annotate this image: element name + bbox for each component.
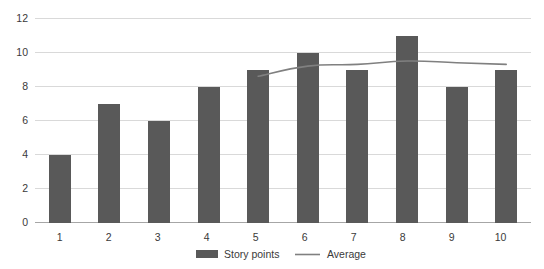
y-tick-label: 2	[22, 182, 28, 194]
bar-7	[346, 70, 368, 223]
y-tick-label: 10	[16, 46, 28, 58]
bar-1	[49, 155, 71, 223]
x-tick-label: 2	[106, 231, 112, 243]
x-tick-label: 4	[204, 231, 210, 243]
x-tick-label: 3	[155, 231, 161, 243]
y-tick-label: 4	[22, 148, 28, 160]
bar-4	[198, 87, 220, 223]
y-tick-label: 0	[22, 216, 28, 228]
bar-6	[297, 53, 319, 223]
x-tick-label: 1	[57, 231, 63, 243]
legend-label-story-points: Story points	[224, 248, 279, 260]
y-tick-label: 12	[16, 12, 28, 24]
legend-swatch-story-points	[196, 250, 218, 258]
legend-label-average: Average	[327, 248, 366, 260]
x-tick-label: 6	[302, 231, 308, 243]
bar-8	[396, 36, 418, 223]
y-tick-label: 6	[22, 114, 28, 126]
bar-chart-svg: 12 10 8 6 4 2 0 1 2 3 4 5 6 7 8 9 10 Sto…	[0, 0, 544, 269]
bar-3	[148, 121, 170, 223]
bar-10	[495, 70, 517, 223]
x-tick-label: 5	[253, 231, 259, 243]
x-tick-label: 8	[400, 231, 406, 243]
x-tick-label: 7	[351, 231, 357, 243]
y-tick-label: 8	[22, 80, 28, 92]
bar-5	[247, 70, 269, 223]
x-tick-label: 10	[495, 231, 507, 243]
bar-9	[446, 87, 468, 223]
bar-2	[98, 104, 120, 223]
x-tick-label: 9	[449, 231, 455, 243]
chart-container: 12 10 8 6 4 2 0 1 2 3 4 5 6 7 8 9 10 Sto…	[0, 0, 544, 269]
